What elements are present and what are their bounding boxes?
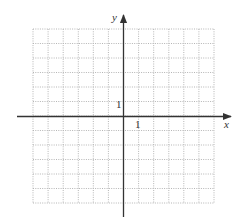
coordinate-plane: x y 1 1 (0, 0, 242, 223)
y-axis-label: y (111, 11, 117, 23)
y-tick-label: 1 (116, 98, 122, 110)
x-axis-label: x (223, 118, 229, 130)
x-tick-label: 1 (135, 118, 141, 130)
